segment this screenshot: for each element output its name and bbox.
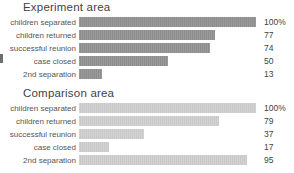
- bar-value-label: 95: [264, 155, 273, 166]
- bar-fill: [79, 69, 102, 79]
- bar-row: children returned 79: [0, 116, 294, 127]
- bar-track: [79, 142, 294, 152]
- bar-fill: [79, 17, 256, 27]
- bar-track: [79, 129, 294, 139]
- bar-track: [79, 116, 294, 126]
- bar-value-label: 79: [264, 116, 273, 127]
- bar-value-label: 50: [264, 56, 273, 67]
- bar-fill: [79, 129, 144, 139]
- bar-track: [79, 155, 294, 165]
- bar-value-label: 100%: [264, 17, 286, 28]
- experiment-bar-rows: children separated 100% children returne…: [0, 17, 294, 82]
- bar-fill: [79, 142, 109, 152]
- bar-row: successful reunion 74: [0, 43, 294, 54]
- bar-track: [79, 30, 294, 40]
- bar-track: [79, 103, 294, 113]
- bar-category-label: children returned: [0, 116, 76, 127]
- bar-value-label: 100%: [264, 103, 286, 114]
- bar-fill: [79, 155, 247, 165]
- bar-value-label: 74: [264, 43, 273, 54]
- chart-title-experiment: Experiment area: [23, 1, 110, 13]
- bar-row: 2nd separation 13: [0, 69, 294, 80]
- bar-track: [79, 69, 294, 79]
- bar-category-label: 2nd separation: [0, 155, 76, 166]
- bar-category-label: children separated: [0, 103, 76, 114]
- bar-fill: [79, 56, 168, 66]
- bar-category-label: children separated: [0, 17, 76, 28]
- bar-fill: [79, 103, 256, 113]
- bar-row: case closed 17: [0, 142, 294, 153]
- bar-category-label: case closed: [0, 56, 76, 67]
- bar-row: successful reunion 37: [0, 129, 294, 140]
- bar-track: [79, 17, 294, 27]
- bar-category-label: successful reunion: [0, 43, 76, 54]
- chart-title-comparison: Comparison area: [23, 87, 114, 99]
- bar-category-label: case closed: [0, 142, 76, 153]
- bar-row: children separated 100%: [0, 17, 294, 28]
- bar-value-label: 77: [264, 30, 273, 41]
- bar-fill: [79, 30, 215, 40]
- bar-row: children returned 77: [0, 30, 294, 41]
- bar-row: case closed 50: [0, 56, 294, 67]
- bar-category-label: successful reunion: [0, 129, 76, 140]
- bar-fill: [79, 116, 219, 126]
- bar-track: [79, 43, 294, 53]
- bar-value-label: 13: [264, 69, 273, 80]
- bar-category-label: 2nd separation: [0, 69, 76, 80]
- comparison-bar-rows: children separated 100% children returne…: [0, 103, 294, 168]
- bar-category-label: children returned: [0, 30, 76, 41]
- bar-value-label: 37: [264, 129, 273, 140]
- bar-row: 2nd separation 95: [0, 155, 294, 166]
- bar-track: [79, 56, 294, 66]
- bar-fill: [79, 43, 210, 53]
- bar-row: children separated 100%: [0, 103, 294, 114]
- bar-value-label: 17: [264, 142, 273, 153]
